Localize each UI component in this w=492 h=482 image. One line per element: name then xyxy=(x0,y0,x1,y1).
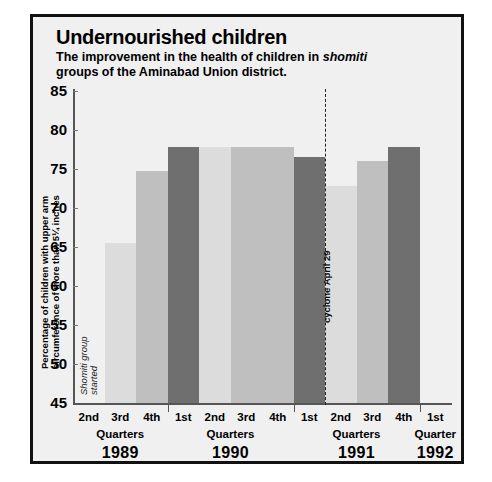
x-group-divider xyxy=(420,403,422,412)
bar-1990-3rd xyxy=(231,147,263,403)
x-group-quarters-label: Quarters xyxy=(181,428,281,440)
cyclone-event-label: cyclone April 29 xyxy=(321,250,332,323)
subtitle-text-2: groups of the Aminabad Union district. xyxy=(56,65,287,79)
shomiti-start-line-2: started xyxy=(89,336,99,395)
subtitle-text-1: The improvement in the health of childre… xyxy=(56,50,323,64)
x-group-quarters-label: Quarters xyxy=(70,428,170,440)
x-group-year-label: 1990 xyxy=(181,444,281,462)
plot-area xyxy=(73,91,451,403)
bar-1991-3rd xyxy=(357,161,389,403)
bar-1990-1st xyxy=(168,147,200,403)
x-group-divider xyxy=(168,403,170,412)
y-tick-label: 85 xyxy=(33,82,67,99)
bar-1989-3rd xyxy=(105,243,137,403)
x-group-year-label: 1989 xyxy=(70,444,170,462)
subtitle-italic-term: shomiti xyxy=(323,50,367,64)
y-tick-label: 70 xyxy=(33,199,67,216)
y-tick-label: 45 xyxy=(33,394,67,411)
bar-1990-2nd xyxy=(199,147,231,403)
y-tick-label: 60 xyxy=(33,277,67,294)
y-tick-label: 75 xyxy=(33,160,67,177)
bar-1989-4th xyxy=(136,171,168,403)
x-group-year-label: 1992 xyxy=(385,444,464,462)
cyclone-event-line xyxy=(325,89,326,405)
x-group-quarters-label: Quarter xyxy=(385,428,464,440)
shomiti-start-label: Shomiti group started xyxy=(79,336,99,395)
y-tick-label: 50 xyxy=(33,355,67,372)
chart-title: Undernourished children xyxy=(56,26,287,49)
x-quarter-label: 1st xyxy=(415,411,455,423)
y-tick-label: 80 xyxy=(33,121,67,138)
y-tick-label: 55 xyxy=(33,316,67,333)
y-tick-label: 65 xyxy=(33,238,67,255)
chart-figure: Undernourished children The improvement … xyxy=(30,14,464,464)
chart-subtitle: The improvement in the health of childre… xyxy=(56,50,446,80)
bar-1990-4th xyxy=(262,147,294,403)
x-group-divider xyxy=(294,403,296,412)
x-axis-line xyxy=(73,403,452,405)
bar-1991-4th xyxy=(388,147,420,403)
